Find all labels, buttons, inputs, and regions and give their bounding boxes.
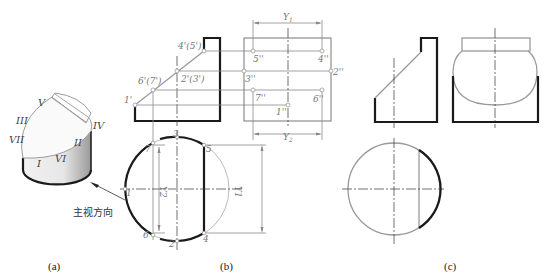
point-label-2pp: 2'' [332, 67, 344, 77]
caption-c: (c) [444, 260, 457, 273]
point-label-6p7p: 6'(7') [138, 76, 162, 86]
caption-a: (a) [48, 260, 61, 273]
drawing-canvas: V III IV VII II VI I 主视方向 4'(5') 2'(3') … [0, 0, 546, 277]
top-point-5: 5 [206, 144, 212, 154]
isometric-view: V III IV VII II VI I 主视方向 [9, 93, 125, 218]
svg-text:Y1: Y1 [233, 186, 243, 198]
projection-views-c [342, 28, 538, 244]
svg-text:Y2: Y2 [158, 186, 168, 198]
face-label-ii: II [73, 137, 83, 148]
face-label-iv: IV [92, 120, 106, 131]
point-label-4pp: 4'' [317, 54, 329, 64]
top-point-1: 1 [126, 188, 132, 198]
point-label-7pp: 7'' [255, 93, 266, 103]
top-point-4: 4 [202, 234, 209, 244]
face-label-iii: III [15, 115, 29, 126]
view-direction-label: 主视方向 [73, 206, 113, 218]
face-label-vii: VII [9, 134, 25, 145]
dimension-y1: Y1 [283, 12, 293, 23]
top-point-7: 7 [145, 144, 151, 154]
projection-views-b: 4'(5') 2'(3') 6'(7') 1' Y1 Y2 5'' 4'' 3'… [120, 12, 344, 250]
point-label-1pp: 1'' [276, 107, 287, 117]
point-label-4p5p: 4'(5') [177, 41, 202, 51]
point-label-5pp: 5'' [253, 54, 264, 64]
top-point-3: 3 [173, 129, 179, 139]
top-point-2: 2 [168, 239, 175, 249]
point-label-3pp: 3'' [245, 74, 256, 84]
point-label-6pp: 6'' [313, 94, 324, 104]
face-label-vi: VI [55, 153, 67, 164]
point-label-1p: 1' [124, 95, 132, 105]
point-label-2p3p: 2'(3') [180, 74, 205, 84]
caption-b: (b) [220, 260, 233, 273]
top-point-6: 6 [143, 230, 149, 240]
